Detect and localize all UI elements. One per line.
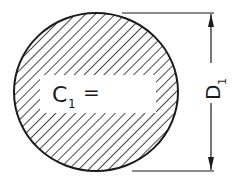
label-operator: = (83, 80, 100, 104)
label-symbol: C (52, 82, 67, 107)
diagram-canvas: C 1 = D 1 (0, 0, 240, 181)
dimension-symbol: D (201, 85, 225, 100)
arrow-down-icon (208, 157, 214, 170)
dimension-subscript: 1 (216, 78, 229, 85)
arrow-up-icon (208, 14, 214, 27)
label-subscript: 1 (68, 97, 76, 111)
dimension-label: D 1 (201, 78, 229, 100)
